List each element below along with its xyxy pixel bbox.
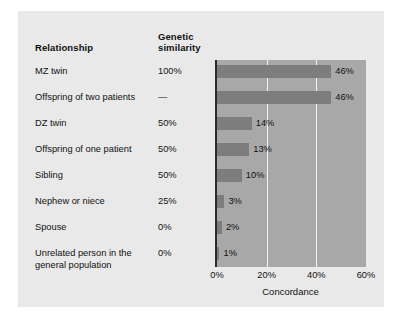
x-axis-tick-label: 60% — [346, 270, 386, 280]
bar-value-label: 46% — [335, 91, 354, 104]
table-row: Spouse0% — [18, 222, 218, 248]
bar — [217, 247, 219, 260]
column-header-genetic-similarity-line1: Genetic — [158, 31, 228, 42]
row-label-relationship: Sibling — [35, 170, 155, 182]
row-value-genetic-similarity: 0% — [158, 222, 171, 234]
row-value-genetic-similarity: 25% — [158, 196, 177, 208]
x-axis-tick-label: 20% — [247, 270, 287, 280]
x-axis-tick-label: 40% — [296, 270, 336, 280]
bar — [217, 169, 242, 182]
x-axis-tick-label: 0% — [197, 270, 237, 280]
column-header-relationship: Relationship — [35, 42, 93, 53]
bar-value-label: 2% — [226, 221, 239, 234]
column-header-genetic-similarity-line2: similarity — [158, 42, 228, 53]
row-label-relationship: Spouse — [35, 222, 155, 234]
table-row: DZ twin50% — [18, 118, 218, 144]
table-row: Sibling50% — [18, 170, 218, 196]
row-value-genetic-similarity: 0% — [158, 248, 171, 260]
bar-value-label: 1% — [223, 247, 236, 260]
row-label-relationship: Offspring of two patients — [35, 92, 155, 104]
chart-figure-panel: Relationship Genetic similarity MZ twin1… — [18, 11, 384, 307]
concordance-plot-area: 46%46%14%13%10%3%2%1% — [215, 60, 366, 267]
table-row: Unrelated person in thegeneral populatio… — [18, 248, 218, 274]
row-label-relationship: Nephew or niece — [35, 196, 155, 208]
row-label-relationship: DZ twin — [35, 118, 155, 130]
row-value-genetic-similarity: 50% — [158, 170, 177, 182]
row-value-genetic-similarity: 50% — [158, 118, 177, 130]
bar — [217, 65, 331, 78]
bar — [217, 195, 224, 208]
row-label-relationship: Unrelated person in thegeneral populatio… — [35, 248, 155, 271]
table-row: Nephew or niece25% — [18, 196, 218, 222]
row-label-relationship: MZ twin — [35, 66, 155, 78]
table-row: MZ twin100% — [18, 66, 218, 92]
bar-value-label: 14% — [256, 117, 275, 130]
bar-value-label: 10% — [246, 169, 265, 182]
row-value-genetic-similarity: 50% — [158, 144, 177, 156]
row-label-relationship: Offspring of one patient — [35, 144, 155, 156]
row-label-relationship-line2: general population — [35, 260, 155, 272]
bar-value-label: 46% — [335, 65, 354, 78]
bar — [217, 91, 331, 104]
bar-value-label: 13% — [253, 143, 272, 156]
bar — [217, 143, 249, 156]
bar-value-label: 3% — [228, 195, 241, 208]
bar — [217, 117, 252, 130]
table-row: Offspring of two patients— — [18, 92, 218, 118]
column-header-genetic-similarity: Genetic similarity — [158, 31, 228, 53]
row-value-genetic-similarity: 100% — [158, 66, 182, 78]
bar — [217, 221, 222, 234]
x-axis-label: Concordance — [215, 286, 366, 297]
row-value-genetic-similarity: — — [158, 92, 167, 104]
table-row: Offspring of one patient50% — [18, 144, 218, 170]
